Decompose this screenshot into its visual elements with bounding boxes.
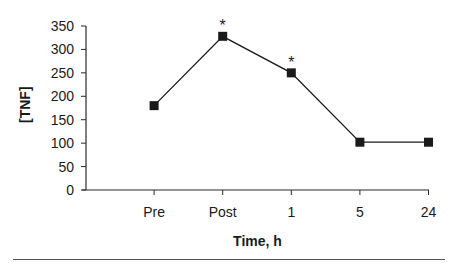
x-axis-ticks: PrePost1524 <box>143 190 436 220</box>
y-tick-label: 50 <box>58 159 74 175</box>
significance-asterisk: * <box>288 54 294 71</box>
axes <box>82 26 429 190</box>
y-tick-label: 350 <box>51 18 75 34</box>
tnf-line-chart: 050100150200250300350 PrePost1524 ** <box>0 0 453 267</box>
y-tick-label: 200 <box>51 88 75 104</box>
significance-annotations: ** <box>220 17 295 71</box>
bottom-divider <box>13 259 445 260</box>
series-line <box>154 36 428 142</box>
y-axis-ticks: 050100150200250300350 <box>51 18 86 198</box>
x-tick-label: Post <box>209 204 237 220</box>
y-tick-label: 150 <box>51 112 75 128</box>
y-tick-label: 100 <box>51 135 75 151</box>
x-tick-label: 24 <box>421 204 437 220</box>
data-series <box>150 32 433 147</box>
y-tick-label: 300 <box>51 41 75 57</box>
x-tick-label: Pre <box>143 204 165 220</box>
x-tick-label: 1 <box>287 204 295 220</box>
significance-asterisk: * <box>220 17 226 34</box>
x-tick-label: 5 <box>356 204 364 220</box>
x-axis-label: Time, h <box>200 233 315 249</box>
y-tick-label: 0 <box>66 182 74 198</box>
y-axis-label: [TNF] <box>15 89 35 123</box>
y-tick-label: 250 <box>51 65 75 81</box>
data-point-marker <box>424 138 433 147</box>
data-point-marker <box>355 138 364 147</box>
data-point-marker <box>150 101 159 110</box>
